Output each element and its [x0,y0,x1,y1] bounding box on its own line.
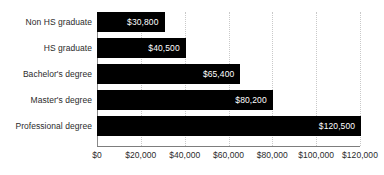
y-axis-category-labels: Non HS graduate HS graduate Bachelor's d… [0,12,92,146]
bar-value-label: $40,500 [148,44,179,53]
bar-hs-graduate: $40,500 [97,38,186,58]
bar-value-label: $30,800 [127,18,158,27]
plot-area: $30,800 $40,500 $65,400 $80,200 [97,12,360,146]
category-label: HS graduate [44,38,92,58]
x-axis-tick-labels: $0 $20,000 $40,000 $60,000 $80,000 $100,… [97,150,360,168]
bar-row: $80,200 [97,90,273,110]
category-label: Professional degree [15,116,92,136]
category-label: Non HS graduate [26,12,92,32]
bar-value-label: $120,500 [319,122,355,131]
x-tick-label: $100,000 [298,150,334,160]
x-tick-label: $20,000 [125,150,156,160]
bar-professional-degree: $120,500 [97,116,361,136]
bar-non-hs-graduate: $30,800 [97,12,165,32]
bar-row: $120,500 [97,116,361,136]
bar-masters-degree: $80,200 [97,90,273,110]
x-tick-label: $60,000 [213,150,244,160]
bar-row: $30,800 [97,12,165,32]
bar-bachelors-degree: $65,400 [97,64,240,84]
category-label: Master's degree [31,90,92,110]
bar-row: $65,400 [97,64,240,84]
x-tick-label: $80,000 [257,150,288,160]
bar-value-label: $80,200 [235,96,266,105]
bar-series: $30,800 $40,500 $65,400 $80,200 [97,12,360,146]
bar-chart: Non HS graduate HS graduate Bachelor's d… [0,0,384,175]
x-tick-label: $0 [92,150,102,160]
x-tick-label: $120,000 [342,150,378,160]
x-axis-line [97,146,360,147]
bar-row: $40,500 [97,38,186,58]
category-label: Bachelor's degree [23,64,92,84]
bar-value-label: $65,400 [203,70,234,79]
x-tick-label: $40,000 [169,150,200,160]
